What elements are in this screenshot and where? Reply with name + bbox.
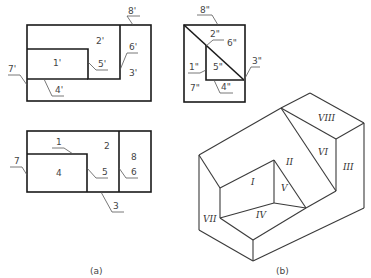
label-1: 1 [56, 137, 62, 147]
label-3: 3 [113, 201, 119, 211]
label-2-double: 2" [210, 29, 220, 39]
label-5-prime: 5' [98, 59, 106, 69]
label-5-double: 5" [213, 62, 223, 72]
label-4-double: 4" [221, 82, 231, 92]
caption-b: (b) [276, 266, 289, 276]
isometric-view: I II III IV V VI VII VIII [199, 93, 364, 261]
face-III: III [342, 162, 354, 172]
label-3-double: 3" [252, 56, 262, 66]
face-VI: VI [318, 147, 328, 157]
label-4-prime: 4' [55, 85, 63, 95]
label-7-double: 7" [190, 83, 200, 93]
label-4: 4 [56, 168, 62, 178]
side-view: 8" 2" 6" 1" 5" 3" 7" 4" [184, 5, 262, 102]
face-I: I [250, 177, 255, 187]
label-8: 8 [131, 152, 137, 162]
face-VIII: VIII [318, 113, 336, 123]
label-7: 7 [14, 156, 20, 166]
front-view: 8' 2' 6' 5' 1' 3' 7' 4' [8, 6, 151, 101]
label-1-prime: 1' [53, 58, 61, 68]
label-3-prime: 3' [129, 68, 137, 78]
face-VII: VII [203, 214, 217, 224]
label-6: 6 [131, 167, 137, 177]
label-8-double: 8" [200, 5, 210, 15]
face-II: II [285, 157, 294, 167]
caption-a: (a) [90, 266, 103, 276]
label-5: 5 [102, 167, 108, 177]
label-2-prime: 2' [96, 36, 104, 46]
label-6-prime: 6' [129, 42, 137, 52]
orthographic-projection-figure: 8' 2' 6' 5' 1' 3' 7' 4' 8" 2" 6" 1" 5" 3… [0, 0, 371, 278]
face-IV: IV [255, 210, 268, 220]
label-2: 2 [104, 141, 110, 151]
face-V: V [281, 183, 289, 193]
label-6-double: 6" [227, 38, 237, 48]
label-8-prime: 8' [128, 6, 136, 16]
label-7-prime: 7' [8, 64, 16, 74]
label-1-double: 1" [189, 62, 199, 72]
top-view: 1 2 8 7 4 5 6 3 [10, 131, 151, 212]
